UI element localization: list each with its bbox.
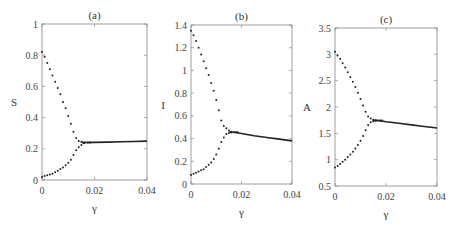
- data-point: [367, 115, 369, 117]
- data-point: [75, 149, 77, 151]
- y-axis-label: A: [303, 101, 311, 113]
- data-point: [370, 118, 372, 120]
- data-point: [73, 154, 75, 156]
- y-tick-label: 1.4: [175, 20, 188, 31]
- data-point: [52, 74, 54, 76]
- x-tick-label: 0.02: [233, 189, 251, 200]
- data-point: [62, 167, 64, 169]
- stable-line: [378, 120, 437, 128]
- data-point: [49, 68, 51, 70]
- data-point: [225, 127, 227, 129]
- data-point: [205, 67, 207, 69]
- data-point: [198, 171, 200, 173]
- y-tick-label: 0.2: [26, 143, 39, 154]
- data-point: [223, 136, 225, 138]
- data-point: [190, 174, 192, 176]
- data-point: [78, 140, 80, 142]
- axes-box: [335, 28, 437, 186]
- data-point: [218, 109, 220, 111]
- data-point: [334, 51, 336, 53]
- y-tick-label: 3: [326, 49, 331, 60]
- data-point: [54, 171, 56, 173]
- data-point: [208, 164, 210, 166]
- data-point: [59, 168, 61, 170]
- data-point: [67, 162, 69, 164]
- data-point: [357, 144, 359, 146]
- data-point: [44, 175, 46, 177]
- data-point: [344, 67, 346, 69]
- data-point: [339, 58, 341, 60]
- data-point: [90, 142, 92, 144]
- x-tick-label: 0: [189, 189, 194, 200]
- data-point: [80, 144, 82, 146]
- data-point: [193, 173, 195, 175]
- data-point: [220, 119, 222, 121]
- data-point: [215, 99, 217, 101]
- data-point: [352, 151, 354, 153]
- data-point: [54, 81, 56, 83]
- x-tick-label: 0.04: [138, 185, 156, 196]
- panel-c: 0.511.522.533.500.020.04(c)γA: [303, 13, 446, 220]
- data-point: [349, 76, 351, 78]
- data-point: [215, 153, 217, 155]
- y-tick-label: 0.8: [26, 50, 39, 61]
- data-point: [203, 60, 205, 62]
- data-point: [349, 153, 351, 155]
- data-point: [218, 148, 220, 150]
- figure: 00.20.40.60.8100.020.04(a)γS00.20.40.60.…: [0, 0, 455, 228]
- y-tick-label: 0.6: [26, 81, 39, 92]
- data-point: [347, 71, 349, 73]
- panel-title: (a): [88, 9, 101, 22]
- x-tick-label: 0.04: [283, 189, 301, 200]
- data-point: [44, 56, 46, 58]
- data-point: [220, 141, 222, 143]
- data-point: [360, 98, 362, 100]
- data-point: [195, 40, 197, 42]
- x-axis-label: γ: [91, 202, 97, 214]
- data-point: [73, 131, 75, 133]
- data-point: [365, 129, 367, 131]
- x-tick-label: 0.04: [428, 191, 446, 202]
- data-point: [190, 30, 192, 32]
- y-tick-label: 0.8: [175, 88, 188, 99]
- data-point: [342, 161, 344, 163]
- panel-a: 00.20.40.60.8100.020.04(a)γS: [11, 9, 156, 214]
- data-point: [237, 131, 239, 133]
- y-tick-label: 3.5: [319, 23, 332, 34]
- x-tick-label: 0.02: [377, 191, 395, 202]
- data-point: [57, 87, 59, 89]
- data-point: [41, 51, 43, 53]
- data-point: [228, 130, 230, 132]
- data-point: [354, 148, 356, 150]
- y-tick-label: 2: [326, 102, 331, 113]
- axes-box: [42, 24, 147, 180]
- data-point: [365, 111, 367, 113]
- data-point: [57, 170, 59, 172]
- data-point: [78, 146, 80, 148]
- stable-line: [87, 141, 147, 142]
- data-point: [70, 159, 72, 161]
- data-point: [210, 161, 212, 163]
- data-point: [52, 173, 54, 175]
- data-point: [342, 62, 344, 64]
- x-tick-label: 0.02: [86, 185, 104, 196]
- data-point: [200, 54, 202, 56]
- data-point: [67, 115, 69, 117]
- y-tick-label: 1.5: [319, 128, 332, 139]
- data-point: [193, 34, 195, 36]
- data-point: [225, 133, 227, 135]
- data-point: [334, 167, 336, 169]
- data-point: [49, 174, 51, 176]
- panel-b: 00.20.40.60.811.21.400.020.04(b)γI: [161, 10, 301, 218]
- data-point: [62, 101, 64, 103]
- y-tick-label: 1: [326, 154, 331, 165]
- data-point: [347, 156, 349, 158]
- data-point: [360, 140, 362, 142]
- y-axis-label: S: [11, 96, 17, 108]
- data-point: [46, 62, 48, 64]
- data-point: [65, 164, 67, 166]
- y-axis-label: I: [161, 99, 165, 111]
- y-tick-label: 1: [182, 65, 187, 76]
- stable-line: [234, 132, 292, 141]
- data-point: [354, 86, 356, 88]
